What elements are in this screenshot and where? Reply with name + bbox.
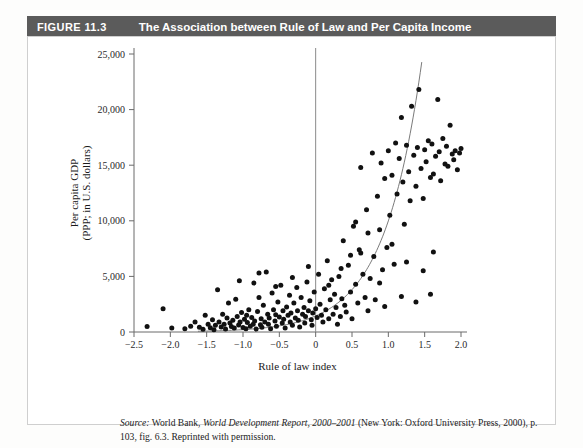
data-point <box>331 312 336 317</box>
source-note: Source: World Bank, World Development Re… <box>120 416 550 443</box>
y-tick-label: 25,000 <box>98 49 126 60</box>
data-point <box>291 301 296 306</box>
data-point <box>406 169 411 174</box>
data-point <box>188 324 193 329</box>
y-tick-label: 0 <box>120 327 125 338</box>
figure-caption-bar: FIGURE 11.3 The Association between Rule… <box>27 16 556 37</box>
data-point <box>393 140 398 145</box>
data-point <box>169 326 174 331</box>
data-point <box>350 316 355 321</box>
data-point <box>382 176 387 181</box>
data-point <box>395 192 400 197</box>
data-point <box>413 184 418 189</box>
data-point <box>323 307 328 312</box>
data-point <box>294 285 299 290</box>
data-point <box>365 308 370 313</box>
data-point <box>312 289 317 294</box>
data-point <box>379 160 384 165</box>
data-point <box>404 143 409 148</box>
data-point <box>409 104 414 109</box>
data-point <box>342 303 347 308</box>
data-point <box>215 287 220 292</box>
x-tick-label: 1.5 <box>418 339 431 350</box>
data-point <box>326 316 331 321</box>
data-point <box>315 315 320 320</box>
data-point <box>429 142 434 147</box>
data-point <box>380 267 385 272</box>
data-point <box>457 150 462 155</box>
data-point <box>302 321 307 326</box>
data-point <box>230 318 235 323</box>
data-point <box>455 167 460 172</box>
data-point <box>274 324 279 329</box>
data-point <box>411 153 416 158</box>
data-point <box>238 319 243 324</box>
data-point <box>232 326 237 331</box>
y-axis-title-line1: Per capita GDP <box>68 159 80 227</box>
data-point <box>283 326 288 331</box>
data-point <box>303 314 308 319</box>
data-point <box>373 297 378 302</box>
y-axis-title-line2: (PPP; in U.S. dollars) <box>80 145 93 240</box>
data-point <box>433 154 438 159</box>
data-point <box>368 276 373 281</box>
y-tick-label: 20,000 <box>98 104 126 115</box>
data-point <box>438 178 443 183</box>
data-point <box>284 304 289 309</box>
figure-title: The Association between Rule of Law and … <box>107 21 472 33</box>
data-point <box>255 309 260 314</box>
data-point <box>402 222 407 227</box>
data-point <box>428 292 433 297</box>
data-point <box>422 147 427 152</box>
data-point <box>448 123 453 128</box>
data-points <box>145 87 464 332</box>
data-point <box>371 254 376 259</box>
data-point <box>264 269 269 274</box>
data-point <box>399 294 404 299</box>
figure-frame: 05,00010,00015,00020,00025,000−2.5−2.0−1… <box>27 36 556 425</box>
data-point <box>341 238 346 243</box>
data-point <box>223 327 228 332</box>
data-point <box>278 283 283 288</box>
chart-area: 05,00010,00015,00020,00025,000−2.5−2.0−1… <box>28 37 557 426</box>
data-point <box>268 326 273 331</box>
data-point <box>251 281 256 286</box>
data-point <box>295 308 300 313</box>
data-point <box>453 148 458 153</box>
data-point <box>239 310 244 315</box>
data-point <box>363 295 368 300</box>
data-point <box>339 296 344 301</box>
data-point <box>413 299 418 304</box>
y-tick-label: 5,000 <box>103 271 126 282</box>
data-point <box>211 327 216 332</box>
data-point <box>244 313 249 318</box>
data-point <box>220 312 225 317</box>
data-point <box>217 319 222 324</box>
data-point <box>252 318 257 323</box>
data-point <box>334 305 339 310</box>
data-point <box>287 293 292 298</box>
x-tick-label: −1.5 <box>198 339 216 350</box>
data-point <box>267 316 272 321</box>
data-point <box>424 159 429 164</box>
data-point <box>387 213 392 218</box>
data-point <box>161 306 166 311</box>
data-point <box>237 278 242 283</box>
data-point <box>259 325 264 330</box>
data-point <box>273 284 278 289</box>
data-point <box>256 295 261 300</box>
data-point <box>309 317 314 322</box>
data-point <box>310 323 315 328</box>
data-point <box>365 231 370 236</box>
data-point <box>304 279 309 284</box>
data-point <box>386 148 391 153</box>
data-point <box>364 207 369 212</box>
data-point <box>353 282 358 287</box>
data-point <box>290 275 295 280</box>
data-point <box>408 198 413 203</box>
data-point <box>306 264 311 269</box>
data-point <box>375 194 380 199</box>
data-point <box>318 302 323 307</box>
data-point <box>277 314 282 319</box>
axes-group <box>129 48 467 337</box>
